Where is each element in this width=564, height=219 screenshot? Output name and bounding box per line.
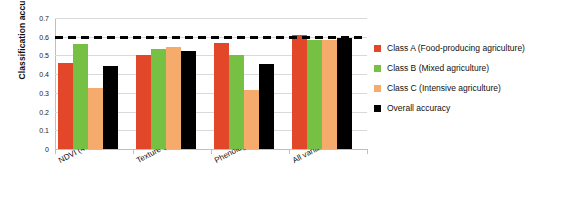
y-tick-label: 0 — [45, 146, 49, 153]
bar[interactable] — [292, 35, 307, 149]
bar[interactable] — [259, 64, 274, 149]
legend-item[interactable]: Overall accuracy — [374, 100, 564, 117]
bar[interactable] — [244, 90, 259, 149]
legend-item-label: Class A (Food-producing agriculture) — [387, 44, 525, 53]
y-tick-label: 0.7 — [39, 15, 49, 22]
square-swatch-icon — [374, 45, 381, 52]
x-axis-tick — [133, 149, 134, 154]
reference-line — [55, 36, 367, 39]
bar[interactable] — [322, 40, 337, 149]
plot-area — [55, 18, 367, 149]
y-axis-tick-labels: 00.10.20.30.40.50.60.7 — [0, 18, 53, 149]
square-swatch-icon — [374, 105, 381, 112]
bar[interactable] — [136, 55, 151, 150]
legend-item[interactable]: Class A (Food-producing agriculture) — [374, 40, 564, 57]
y-tick-label: 0.4 — [39, 71, 49, 78]
bar[interactable] — [103, 66, 118, 149]
chart-legend: Class A (Food-producing agriculture)Clas… — [374, 40, 564, 120]
legend-item-label: Class B (Mixed agriculture) — [387, 64, 489, 73]
y-tick-label: 0.2 — [39, 108, 49, 115]
square-swatch-icon — [374, 65, 381, 72]
bar[interactable] — [166, 47, 181, 149]
x-axis-tick — [289, 149, 290, 154]
x-axis-tick — [211, 149, 212, 154]
square-swatch-icon — [374, 85, 381, 92]
bar[interactable] — [181, 51, 196, 149]
bar[interactable] — [73, 44, 88, 149]
bar[interactable] — [58, 63, 73, 149]
legend-item[interactable]: Class C (Intensive agriculture) — [374, 80, 564, 97]
legend-item-label: Overall accuracy — [387, 104, 450, 113]
bar[interactable] — [88, 88, 103, 149]
x-axis-tick — [55, 149, 56, 154]
y-tick-label: 0.5 — [39, 52, 49, 59]
bar[interactable] — [337, 38, 352, 149]
x-axis-tick — [367, 149, 368, 154]
legend-item-label: Class C (Intensive agriculture) — [387, 84, 501, 93]
y-tick-label: 0.6 — [39, 33, 49, 40]
y-tick-label: 0.3 — [39, 89, 49, 96]
bar[interactable] — [229, 55, 244, 150]
legend-item[interactable]: Class B (Mixed agriculture) — [374, 60, 564, 77]
bar[interactable] — [151, 49, 166, 149]
bar[interactable] — [307, 40, 322, 149]
bar[interactable] — [214, 43, 229, 149]
bar-chart-figure: Classification accuracy 00.10.20.30.40.5… — [0, 0, 564, 219]
y-tick-label: 0.1 — [39, 127, 49, 134]
